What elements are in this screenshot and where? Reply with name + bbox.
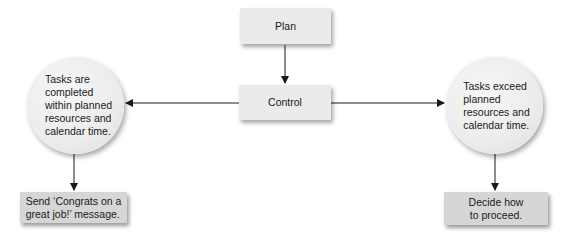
node-within-plan-label: Tasks are completed within planned resou…: [45, 73, 112, 138]
node-decide: Decide how to proceed.: [444, 192, 548, 225]
node-decide-label: Decide how to proceed.: [469, 196, 524, 222]
flowchart-canvas: Plan Control Tasks are completed within …: [0, 0, 575, 248]
node-plan-label: Plan: [275, 20, 296, 33]
node-send-congrats-label: Send ‘Congrats on a great job!’ message.: [26, 195, 122, 221]
node-exceed-plan-label: Tasks exceed planned resources and calen…: [463, 80, 530, 132]
node-plan: Plan: [240, 8, 331, 44]
node-send-congrats: Send ‘Congrats on a great job!’ message.: [20, 192, 127, 223]
node-within-plan: Tasks are completed within planned resou…: [27, 57, 124, 154]
node-control-label: Control: [268, 96, 302, 109]
node-exceed-plan: Tasks exceed planned resources and calen…: [446, 57, 543, 154]
node-control: Control: [239, 85, 331, 120]
